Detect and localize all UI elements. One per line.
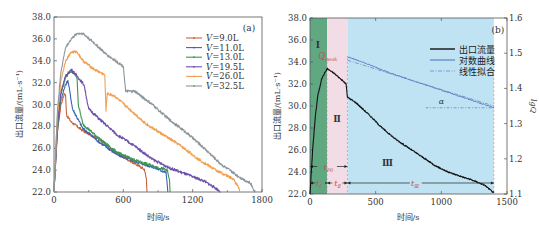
panel-a-y-label: 出口流量/(mL·s⁻¹): [14, 70, 24, 138]
legend-item: V=13.0L: [206, 52, 244, 62]
panel-b-x-label: 时间/s: [397, 212, 420, 222]
y-tick-label: 24.0: [32, 165, 51, 175]
y-tick-label: 38.0: [32, 12, 51, 22]
panel-a-tag: (a): [243, 23, 255, 33]
panel-a-y-axis: 22.024.026.028.030.032.034.036.038.0: [32, 12, 57, 197]
y-tick-label: 28.0: [32, 121, 51, 131]
panel-a-x-label: 时间/s: [147, 212, 170, 222]
y-tick-label: 24.0: [288, 167, 307, 177]
y-tick-label: 22.0: [288, 189, 307, 199]
y-tick-label: 26.0: [32, 143, 51, 153]
y-right-tick-label: 1.4: [509, 83, 523, 93]
y-right-tick-label: 1.2: [509, 154, 523, 164]
y-tick-label: 28.0: [288, 123, 307, 133]
stage-label: Ⅰ: [316, 40, 320, 50]
legend-item: V=11.0L: [206, 43, 244, 53]
x-tick-label: 1200: [182, 195, 204, 205]
y-tick-label: 30.0: [32, 100, 51, 110]
x-tick-label: 0: [307, 197, 312, 207]
panel-b-y-axis-left: 22.024.026.028.030.032.034.036.038.0: [288, 13, 313, 199]
y-tick-label: 34.0: [288, 57, 307, 67]
legend-item: 出口流量: [459, 44, 495, 55]
panel-b-tag: (b): [492, 25, 505, 35]
panel-b-chart: ⅠⅡⅢ 22.024.026.028.030.032.034.036.038.0…: [272, 13, 538, 222]
y-right-tick-label: 1.5: [509, 48, 523, 58]
stage-label: Ⅱ: [333, 114, 341, 124]
legend-item: V=32.5L: [206, 81, 244, 91]
y-tick-label: 36.0: [288, 35, 307, 45]
y-tick-label: 22.0: [32, 187, 51, 197]
x-tick-label: 0: [51, 195, 56, 205]
alpha-label: α: [439, 97, 445, 106]
x-tick-label: 1500: [496, 197, 518, 207]
y-tick-label: 32.0: [32, 78, 51, 88]
x-tick-label: 1000: [431, 197, 453, 207]
legend-item: V=9.0L: [206, 33, 239, 43]
x-tick-label: 1800: [251, 195, 273, 205]
figure: 22.024.026.028.030.032.034.036.038.0 060…: [0, 0, 539, 233]
y-right-tick-label: 1.6: [509, 13, 523, 23]
panel-a-chart: 22.024.026.028.030.032.034.036.038.0 060…: [14, 12, 273, 222]
legend-item: 对数曲线: [459, 55, 495, 66]
y-tick-label: 36.0: [32, 34, 51, 44]
stage-label: Ⅲ: [382, 158, 393, 168]
legend-item: V=26.0L: [206, 71, 244, 81]
x-tick-label: 600: [115, 195, 131, 205]
y-tick-label: 38.0: [288, 13, 307, 23]
panel-b-y-label-right: lgQ: [529, 99, 538, 114]
legend-item: V=19.5L: [206, 62, 244, 72]
y-tick-label: 26.0: [288, 145, 307, 155]
y-tick-label: 32.0: [288, 79, 307, 89]
y-tick-label: 34.0: [32, 56, 51, 66]
x-tick-label: 500: [368, 197, 384, 207]
y-right-tick-label: 1.3: [509, 119, 523, 129]
legend-item: 线性拟合: [459, 66, 495, 77]
y-tick-label: 30.0: [288, 101, 307, 111]
panel-b-y-label: 出口流量/(mL·s⁻¹): [272, 72, 282, 140]
